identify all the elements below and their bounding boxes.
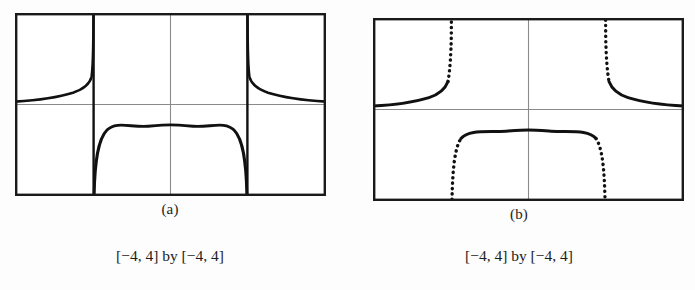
plot-b-svg — [373, 18, 684, 201]
panel-a-range-caption: [−4, 4] by [−4, 4] — [0, 247, 340, 265]
plot-a-viewport — [15, 13, 326, 196]
panel-b: (b) [−4, 4] by [−4, 4] — [348, 0, 695, 290]
plot-a-svg — [15, 13, 326, 196]
panel-b-range-caption: [−4, 4] by [−4, 4] — [348, 247, 690, 265]
panel-a-label: (a) — [0, 201, 340, 218]
graph-figure: (a) [−4, 4] by [−4, 4] — [0, 0, 695, 290]
panel-a: (a) [−4, 4] by [−4, 4] — [0, 0, 348, 290]
plot-b-viewport — [373, 18, 684, 201]
panel-b-label: (b) — [348, 206, 690, 223]
